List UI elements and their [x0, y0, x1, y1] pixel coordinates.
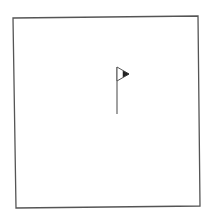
frame-square [13, 16, 200, 208]
drawing-canvas [0, 0, 207, 215]
flag-icon [117, 67, 129, 114]
sketch [0, 0, 207, 215]
